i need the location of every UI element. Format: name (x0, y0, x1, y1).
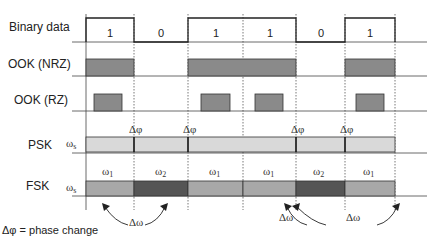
fsk-freq-label: ω1 (209, 165, 220, 179)
bit-value: 1 (206, 27, 226, 39)
fsk-freq-label: ω1 (263, 165, 274, 179)
fsk-freq-label: ω2 (155, 165, 166, 179)
freq-change-label: Δω (129, 216, 143, 228)
fsk-freq-label: ω1 (363, 165, 374, 179)
freq-change-label: Δω (346, 211, 360, 223)
legend-phase-change: Δφ = phase change (2, 224, 98, 236)
phase-change-marker: Δφ (340, 123, 353, 135)
phase-change-marker: Δφ (183, 123, 196, 135)
phase-change-marker: Δφ (129, 123, 142, 135)
freq-change-label: Δω (279, 211, 293, 223)
ook-nrz-pulses (86, 59, 395, 76)
psk-carrier-label: ωs (66, 137, 76, 151)
bit-value: 0 (311, 27, 331, 39)
ook-rz-pulses (94, 94, 384, 111)
bit-value: 0 (151, 27, 171, 39)
fsk-carrier-label: ωs (66, 181, 76, 195)
binary-waveform (86, 18, 395, 42)
fsk-freq-label: ω2 (313, 165, 324, 179)
bit-value: 1 (100, 27, 120, 39)
phase-change-marker: Δφ (291, 123, 304, 135)
bit-value: 1 (260, 27, 280, 39)
psk-band (86, 137, 395, 152)
fsk-freq-label: ω1 (102, 165, 113, 179)
arrowheads (102, 203, 400, 211)
bit-value: 1 (360, 27, 380, 39)
fsk-band (86, 181, 395, 196)
